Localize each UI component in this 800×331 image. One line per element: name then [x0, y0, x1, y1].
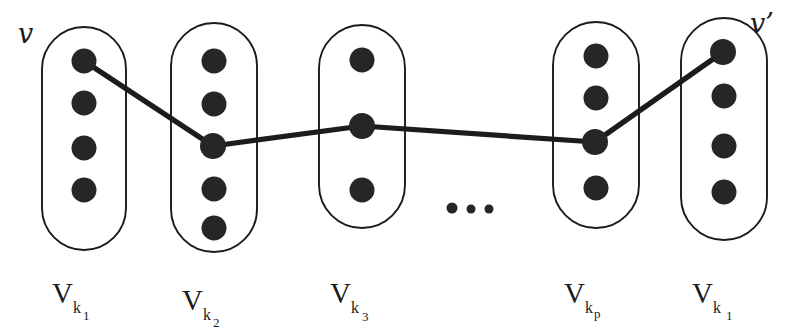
- class-label-main: V: [182, 284, 203, 316]
- class-label-subsub: 1: [83, 308, 90, 323]
- class-label-sub: k: [351, 299, 359, 316]
- class-label-subsub: 1: [726, 308, 733, 323]
- vertex-dot: [72, 91, 97, 116]
- class-label-subsub: 3: [362, 309, 369, 324]
- class-label-subsub: 2: [213, 315, 220, 330]
- class-label-sub: k: [585, 299, 593, 316]
- ellipsis-dot: [447, 203, 458, 214]
- vertex-dot: [202, 92, 227, 117]
- vertex-dot: [350, 48, 375, 73]
- graph-figure: v v’ V k 1 V k 2 V k 3 V k p V k 1: [0, 0, 800, 331]
- vertex-dot: [202, 216, 227, 241]
- partition-class-capsules: [42, 18, 767, 252]
- class-label-main: V: [692, 277, 713, 309]
- class-label-2: V k 2: [182, 284, 220, 330]
- ellipsis-dot: [467, 205, 476, 214]
- class-label-sub: k: [713, 299, 721, 316]
- vertex-dot: [349, 113, 375, 139]
- class-label-1: V k 1: [52, 277, 90, 323]
- class-label-4: V k p: [564, 277, 601, 321]
- vertex-dot: [712, 180, 737, 205]
- ellipsis-icon: [447, 203, 494, 214]
- vertex-dot: [712, 84, 737, 109]
- class-label-main: V: [52, 277, 73, 309]
- class-label-main: V: [330, 277, 351, 309]
- ellipsis-dot: [485, 205, 494, 214]
- vertex-dot: [584, 44, 609, 69]
- vertex-dot: [584, 86, 609, 111]
- vertex-dot: [202, 49, 227, 74]
- class-label-sub: k: [73, 299, 81, 316]
- class-label-3: V k 3: [330, 277, 369, 324]
- vertex-dot: [584, 176, 609, 201]
- vertex-dot: [202, 177, 227, 202]
- vertex-dot: [200, 133, 226, 159]
- endpoint-label-end: v’: [750, 8, 774, 39]
- vertex-dot: [72, 49, 97, 74]
- vertex-dot: [582, 129, 608, 155]
- vertex-dot: [712, 134, 737, 159]
- figure-canvas: v v’ V k 1 V k 2 V k 3 V k p V k 1: [0, 0, 800, 331]
- endpoint-label-start: v: [18, 18, 33, 49]
- class-label-5: V k 1: [692, 277, 733, 323]
- vertex-dot: [72, 178, 97, 203]
- class-label-subsub: p: [594, 306, 601, 321]
- class-label-sub: k: [203, 306, 211, 323]
- vertex-dot: [350, 178, 375, 203]
- class-label-main: V: [564, 277, 585, 309]
- vertex-dot: [72, 136, 97, 161]
- vertex-dot: [710, 39, 736, 65]
